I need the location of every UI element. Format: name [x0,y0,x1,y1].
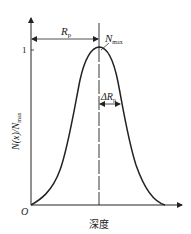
y-axis-label: N(x)/Nmax [10,112,22,151]
y-tick-label: 1 [22,45,27,55]
peak-label: Nmax [104,32,123,45]
origin-label: O [21,206,28,217]
x-axis-label: 深度 [89,218,109,230]
concentration-curve [31,47,165,205]
range-label: Rp [60,25,72,39]
straggle-label: ΔRp [100,91,116,103]
depth-profile-diagram: Rp Nmax ΔRp 1 N(x)/Nmax O 深度 [0,0,191,234]
